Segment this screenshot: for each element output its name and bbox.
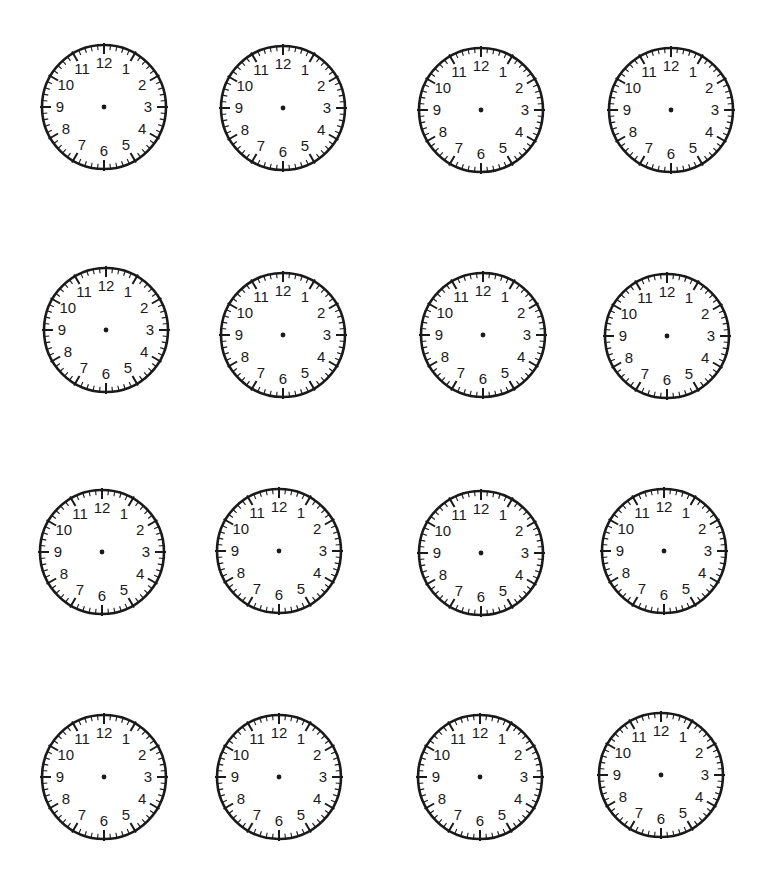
clock-numeral: 11 bbox=[249, 730, 265, 747]
clock-numeral: 5 bbox=[682, 580, 690, 597]
clock-numeral: 5 bbox=[685, 365, 693, 382]
clock-face: 121234567891011 bbox=[215, 40, 351, 176]
minute-tick bbox=[161, 783, 166, 784]
clock-numeral: 7 bbox=[455, 582, 463, 599]
clock-numeral: 3 bbox=[319, 768, 327, 785]
clock-numeral: 4 bbox=[515, 123, 523, 140]
minute-tick bbox=[110, 834, 111, 839]
clock-numeral: 5 bbox=[301, 137, 309, 154]
clock-numeral: 6 bbox=[275, 586, 283, 603]
clock-numeral: 8 bbox=[619, 788, 627, 805]
clock-numeral: 11 bbox=[74, 730, 90, 747]
clock-numeral: 5 bbox=[499, 139, 507, 156]
clock-numeral: 1 bbox=[499, 63, 507, 80]
clock-numeral: 11 bbox=[72, 505, 88, 522]
minute-tick bbox=[670, 489, 671, 494]
clock-numeral: 2 bbox=[313, 746, 321, 763]
clock-numeral: 4 bbox=[313, 564, 321, 581]
minute-tick bbox=[273, 715, 274, 720]
minute-tick bbox=[217, 557, 222, 558]
minute-tick bbox=[419, 116, 424, 117]
clock-numeral: 7 bbox=[645, 139, 653, 156]
minute-tick bbox=[221, 329, 226, 330]
minute-tick bbox=[112, 387, 113, 392]
clock-face: 121234567891011 bbox=[603, 42, 739, 178]
minute-tick bbox=[665, 48, 666, 53]
minute-tick bbox=[487, 610, 488, 615]
clock-numeral: 11 bbox=[249, 504, 265, 521]
clock-numeral: 5 bbox=[297, 806, 305, 823]
clock-numeral: 5 bbox=[689, 139, 697, 156]
clock-numeral: 8 bbox=[439, 123, 447, 140]
minute-tick bbox=[475, 491, 476, 496]
minute-tick bbox=[336, 557, 341, 558]
clock-numeral: 4 bbox=[695, 788, 703, 805]
clock-numeral: 1 bbox=[301, 61, 309, 78]
clock-face: 121234567891011 bbox=[211, 709, 347, 845]
clock-icon: 121234567891011 bbox=[593, 707, 729, 843]
minute-tick bbox=[44, 336, 49, 337]
minute-tick bbox=[661, 274, 662, 279]
minute-tick bbox=[42, 771, 47, 772]
clock-numeral: 11 bbox=[451, 63, 467, 80]
minute-tick bbox=[110, 45, 111, 50]
minute-tick bbox=[421, 329, 426, 330]
minute-tick bbox=[658, 489, 659, 494]
minute-tick bbox=[673, 393, 674, 398]
clock-numeral: 3 bbox=[144, 768, 152, 785]
clock-numeral: 9 bbox=[619, 327, 627, 344]
clock-numeral: 10 bbox=[237, 304, 254, 321]
clock-numeral: 3 bbox=[704, 542, 712, 559]
clock-face: 121234567891011 bbox=[34, 484, 170, 620]
minute-tick bbox=[538, 559, 543, 560]
clock-numeral: 6 bbox=[660, 586, 668, 603]
clock-numeral: 4 bbox=[515, 566, 523, 583]
clock-numeral: 7 bbox=[257, 364, 265, 381]
clock-icon: 121234567891011 bbox=[211, 483, 347, 619]
minute-tick bbox=[667, 832, 668, 837]
clock-numeral: 10 bbox=[233, 746, 250, 763]
clock-face: 121234567891011 bbox=[413, 42, 549, 178]
minute-tick bbox=[419, 104, 424, 105]
clock-numeral: 10 bbox=[58, 746, 75, 763]
clock-numeral: 7 bbox=[635, 804, 643, 821]
clock-numeral: 9 bbox=[433, 101, 441, 118]
minute-tick bbox=[718, 781, 723, 782]
center-dot bbox=[481, 333, 486, 338]
minute-tick bbox=[670, 608, 671, 613]
clock-numeral: 9 bbox=[235, 326, 243, 343]
clock-numeral: 12 bbox=[659, 283, 676, 300]
clock-numeral: 10 bbox=[56, 521, 73, 538]
center-dot bbox=[102, 105, 107, 110]
clock-numeral: 4 bbox=[138, 120, 146, 137]
clock-numeral: 5 bbox=[679, 804, 687, 821]
minute-tick bbox=[285, 715, 286, 720]
clock-numeral: 5 bbox=[301, 364, 309, 381]
minute-tick bbox=[538, 104, 543, 105]
clock-numeral: 4 bbox=[514, 790, 522, 807]
minute-tick bbox=[537, 771, 542, 772]
clock-numeral: 6 bbox=[657, 810, 665, 827]
clock-numeral: 3 bbox=[521, 544, 529, 561]
clock-numeral: 1 bbox=[682, 504, 690, 521]
clock-numeral: 1 bbox=[499, 506, 507, 523]
clock-numeral: 2 bbox=[138, 76, 146, 93]
clock-numeral: 12 bbox=[271, 498, 288, 515]
clock-numeral: 2 bbox=[698, 520, 706, 537]
center-dot bbox=[479, 108, 484, 113]
clock-numeral: 7 bbox=[455, 139, 463, 156]
minute-tick bbox=[673, 274, 674, 279]
minute-tick bbox=[599, 781, 604, 782]
minute-tick bbox=[667, 713, 668, 718]
clock-numeral: 4 bbox=[313, 790, 321, 807]
minute-tick bbox=[217, 545, 222, 546]
clock-numeral: 6 bbox=[477, 145, 485, 162]
center-dot bbox=[277, 549, 282, 554]
minute-tick bbox=[419, 547, 424, 548]
minute-tick bbox=[475, 610, 476, 615]
clock-numeral: 3 bbox=[707, 327, 715, 344]
clock-numeral: 3 bbox=[323, 99, 331, 116]
center-dot bbox=[665, 334, 670, 339]
clock-numeral: 9 bbox=[56, 768, 64, 785]
minute-tick bbox=[538, 116, 543, 117]
